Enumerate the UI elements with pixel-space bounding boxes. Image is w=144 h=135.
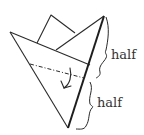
fold-diagram-drawing	[0, 0, 144, 135]
upper-half-brace	[96, 17, 108, 78]
fold-diagram: half half	[0, 0, 144, 135]
lower-half-label: half	[97, 96, 122, 109]
fold-arrow-icon	[61, 68, 71, 88]
main-triangle	[10, 32, 90, 128]
back-square	[37, 15, 75, 43]
upper-half-label: half	[111, 48, 136, 61]
lower-half-brace	[76, 82, 93, 129]
back-flap	[56, 16, 104, 50]
bold-right-edge	[68, 16, 104, 128]
fold-line	[30, 64, 84, 78]
